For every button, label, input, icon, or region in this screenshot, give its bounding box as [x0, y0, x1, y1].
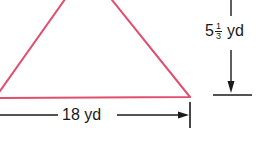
base-length-label: 18 yd — [60, 107, 103, 123]
triangle-shape — [0, 0, 190, 98]
height-whole: 5 — [205, 22, 214, 39]
height-fraction: 13 — [215, 22, 222, 41]
base-length-text: 18 yd — [62, 106, 101, 123]
triangle-diagram: 18 yd 513yd — [0, 0, 273, 146]
height-arrowhead-down — [228, 81, 235, 93]
base-arrowhead-right — [178, 112, 189, 119]
height-denominator: 3 — [215, 32, 222, 41]
height-label: 513yd — [205, 22, 244, 41]
height-unit: yd — [227, 22, 244, 39]
